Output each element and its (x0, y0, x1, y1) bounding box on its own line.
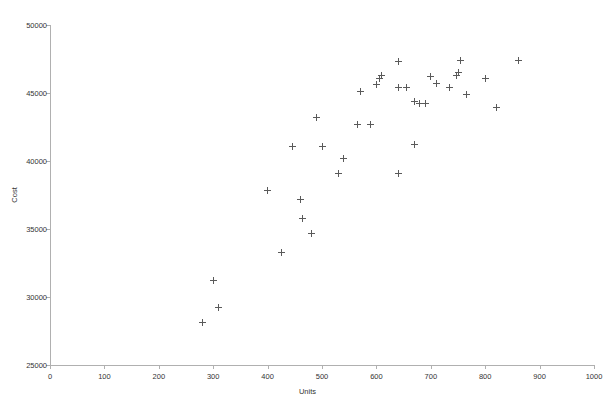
y-tick-label: 40000 (26, 157, 47, 166)
x-tick-label: 300 (207, 372, 220, 381)
scatter-chart: 01002003004005006007008009001000 2500030… (0, 0, 615, 405)
x-tick-mark (268, 365, 269, 369)
x-tick-mark (159, 365, 160, 369)
x-tick-mark (431, 365, 432, 369)
x-axis-title: Units (0, 387, 615, 396)
y-tick-label: 45000 (26, 89, 47, 98)
x-tick-mark (376, 365, 377, 369)
x-tick-mark (594, 365, 595, 369)
x-tick-label: 600 (370, 372, 383, 381)
x-tick-label: 1000 (586, 372, 603, 381)
x-tick-mark (540, 365, 541, 369)
x-tick-label: 700 (425, 372, 438, 381)
x-tick-label: 400 (261, 372, 274, 381)
x-tick-label: 200 (153, 372, 166, 381)
x-tick-mark (485, 365, 486, 369)
y-axis-title: Cost (10, 187, 19, 202)
x-tick-mark (104, 365, 105, 369)
y-tick-label: 25000 (26, 361, 47, 370)
x-tick-mark (322, 365, 323, 369)
x-tick-label: 100 (98, 372, 111, 381)
x-tick-label: 800 (479, 372, 492, 381)
plot-area (50, 25, 594, 365)
x-tick-label: 500 (316, 372, 329, 381)
x-tick-mark (213, 365, 214, 369)
y-tick-label: 35000 (26, 225, 47, 234)
y-tick-label: 50000 (26, 21, 47, 30)
x-tick-label: 900 (533, 372, 546, 381)
x-tick-label: 0 (48, 372, 52, 381)
y-tick-label: 30000 (26, 293, 47, 302)
x-tick-mark (50, 365, 51, 369)
